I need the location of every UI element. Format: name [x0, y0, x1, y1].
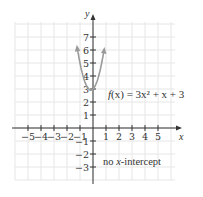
x-tick-label: −4	[34, 131, 48, 142]
parabola-curve	[78, 51, 104, 90]
x-tick-label: −5	[21, 131, 35, 142]
curve-arrow-left-icon	[75, 45, 81, 52]
x-tick-label: 5	[155, 131, 161, 142]
x-tick-label: −3	[47, 131, 61, 142]
y-tick-label: −1	[75, 136, 89, 147]
x-tick-label: 2	[116, 131, 122, 142]
x-tick-label: 4	[142, 131, 148, 142]
x-axis-arrow-icon	[176, 126, 182, 131]
y-tick-label: −2	[75, 149, 89, 160]
y-tick-label: 5	[83, 58, 89, 69]
x-tick-label: −2	[60, 131, 74, 142]
y-axis-label: y	[84, 8, 90, 19]
y-tick-label: 7	[83, 32, 89, 43]
x-tick-label: 1	[103, 131, 109, 142]
function-label: f(x) = 3x² + x + 3	[108, 88, 184, 100]
y-tick-label: 2	[83, 97, 89, 108]
x-tick-label: 3	[129, 131, 135, 142]
y-tick-label: 6	[83, 45, 89, 56]
no-x-intercept-annotation: no x-intercept	[103, 156, 161, 167]
y-axis-arrow-icon	[91, 14, 96, 20]
x-axis-label: x	[178, 131, 184, 142]
y-tick-label: −3	[75, 162, 89, 173]
y-tick-label: 1	[83, 110, 89, 121]
